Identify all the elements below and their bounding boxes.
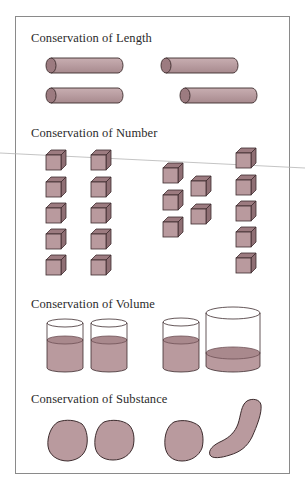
illustration-canvas: [0, 0, 305, 487]
cube-icon: [163, 190, 183, 210]
cube-icon: [236, 201, 256, 221]
cube-icon: [46, 255, 66, 275]
cube-icon: [91, 150, 111, 170]
cube-icon: [91, 255, 111, 275]
rods-group: [46, 58, 257, 103]
cube-icon: [236, 227, 256, 247]
cube-icon: [191, 204, 211, 224]
cube-icon: [163, 217, 183, 237]
beaker-icon: [206, 307, 260, 372]
cube-icon: [46, 203, 66, 223]
cube-icon: [91, 177, 111, 197]
clay-ball-icon: [165, 421, 203, 461]
cube-icon: [46, 150, 66, 170]
beaker-icon: [47, 319, 83, 372]
beaker-icon: [91, 319, 127, 372]
cube-icon: [46, 177, 66, 197]
rod-icon: [180, 88, 257, 103]
cube-icon: [236, 148, 256, 168]
cube-icon: [91, 203, 111, 223]
cube-icon: [91, 229, 111, 249]
cube-icon: [46, 229, 66, 249]
cube-icon: [191, 176, 211, 196]
cube-icon: [163, 163, 183, 183]
cube-icon: [236, 253, 256, 273]
clay-sausage-icon: [210, 399, 262, 457]
cube-icon: [236, 175, 256, 195]
clay-ball-icon: [48, 420, 87, 461]
beakers-group: [47, 307, 260, 372]
clay-group: [48, 399, 261, 461]
rod-icon: [46, 88, 123, 103]
beaker-icon: [163, 318, 199, 372]
cubes-group: [46, 148, 256, 275]
rod-icon: [46, 58, 123, 73]
clay-ball-icon: [95, 420, 134, 460]
rod-icon: [161, 58, 238, 73]
